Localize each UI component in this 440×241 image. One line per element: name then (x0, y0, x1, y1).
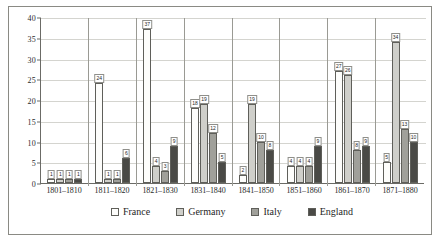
legend-label: France (123, 206, 150, 217)
bar-france[interactable]: 24 (95, 83, 103, 183)
bar-value-label: 10 (256, 133, 266, 142)
bar-value-label: 1 (75, 170, 82, 179)
y-tick-label: 0 (32, 180, 36, 189)
bar-value-label: 5 (219, 153, 226, 162)
bar-england[interactable]: 6 (122, 158, 130, 183)
bar-france[interactable]: 2 (239, 175, 247, 183)
bar-group: 1111 (41, 18, 89, 183)
x-axis-tick-label: 1831–1840 (184, 186, 232, 195)
bar-germany[interactable]: 19 (200, 104, 208, 183)
legend-item-france[interactable]: France (111, 206, 150, 217)
bar-value-label: 9 (362, 137, 369, 146)
bar-germany[interactable]: 1 (104, 179, 112, 183)
bar-group: 4449 (280, 18, 328, 183)
legend-label: England (320, 206, 353, 217)
chart-figure: 0510152025303540 11112411637439181912521… (0, 0, 440, 241)
bar-value-label: 9 (171, 137, 178, 146)
y-tick-label: 10 (28, 138, 36, 147)
bar-germany[interactable]: 26 (344, 75, 352, 183)
bar-england[interactable]: 5 (218, 162, 226, 183)
bar-value-label: 37 (142, 20, 152, 29)
y-tick-mark (37, 184, 41, 185)
bar-england[interactable]: 10 (410, 142, 418, 184)
bar-italy[interactable]: 3 (161, 171, 169, 183)
bar-england[interactable]: 9 (314, 146, 322, 183)
bar-france[interactable]: 27 (335, 71, 343, 183)
bar-group: 1819125 (185, 18, 233, 183)
gridline (41, 184, 426, 185)
y-tick-label: 30 (28, 55, 36, 64)
bar-italy[interactable]: 8 (353, 150, 361, 183)
bar-italy[interactable]: 13 (401, 129, 409, 183)
bar-value-label: 34 (391, 33, 401, 42)
bar-value-label: 3 (162, 162, 169, 171)
bar-value-label: 1 (48, 170, 55, 179)
bar-value-label: 1 (114, 170, 121, 179)
chart-legend: FranceGermanyItalyEngland (40, 206, 424, 217)
bar-italy[interactable]: 12 (209, 133, 217, 183)
bar-france[interactable]: 1 (47, 179, 55, 183)
legend-label: Germany (188, 206, 225, 217)
bar-germany[interactable]: 34 (392, 42, 400, 183)
x-axis-tick-label: 1871–1880 (376, 186, 424, 195)
bar-england[interactable]: 1 (74, 179, 82, 183)
bar-england[interactable]: 9 (170, 146, 178, 183)
bar-value-label: 4 (153, 157, 160, 166)
y-tick-label: 40 (28, 14, 36, 23)
y-tick-label: 35 (28, 34, 36, 43)
legend-item-germany[interactable]: Germany (176, 206, 225, 217)
bar-value-label: 8 (267, 141, 274, 150)
bar-value-label: 4 (296, 157, 303, 166)
bar-germany[interactable]: 19 (248, 104, 256, 183)
legend-swatch-icon (251, 208, 259, 216)
bar-value-label: 1 (57, 170, 64, 179)
legend-swatch-icon (176, 208, 184, 216)
bar-value-label: 6 (123, 149, 130, 158)
x-axis-tick-label: 1851–1860 (280, 186, 328, 195)
legend-label: Italy (263, 206, 281, 217)
bar-italy[interactable]: 10 (257, 142, 265, 184)
bar-italy[interactable]: 1 (113, 179, 121, 183)
bar-value-label: 19 (247, 95, 257, 104)
bar-value-label: 4 (287, 157, 294, 166)
bar-value-label: 1 (66, 170, 73, 179)
plot-area: 0510152025303540 11112411637439181912521… (40, 18, 424, 184)
x-axis-tick-label: 1841–1850 (232, 186, 280, 195)
bar-germany[interactable]: 4 (296, 166, 304, 183)
bar-value-label: 1 (105, 170, 112, 179)
legend-swatch-icon (111, 208, 119, 216)
bar-italy[interactable]: 4 (305, 166, 313, 183)
bar-value-label: 4 (305, 157, 312, 166)
x-axis-labels: 1801–18101811–18201821–18301831–18401841… (40, 186, 424, 195)
bar-france[interactable]: 37 (143, 29, 151, 183)
bar-value-label: 8 (353, 141, 360, 150)
legend-swatch-icon (308, 208, 316, 216)
y-tick-label: 5 (32, 159, 36, 168)
bar-group: 219108 (233, 18, 281, 183)
bar-value-label: 19 (199, 95, 209, 104)
bar-group: 272689 (328, 18, 376, 183)
bar-value-label: 13 (400, 120, 410, 129)
y-tick-label: 15 (28, 117, 36, 126)
y-tick-label: 25 (28, 76, 36, 85)
bar-france[interactable]: 5 (383, 162, 391, 183)
bar-france[interactable]: 4 (287, 166, 295, 183)
bar-value-label: 10 (409, 133, 419, 142)
bar-value-label: 26 (343, 66, 353, 75)
legend-item-italy[interactable]: Italy (251, 206, 281, 217)
bar-groups: 1111241163743918191252191084449272689534… (41, 18, 424, 183)
x-axis-tick-label: 1801–1810 (40, 186, 88, 195)
bar-group: 37439 (137, 18, 185, 183)
bar-value-label: 9 (314, 137, 321, 146)
bar-france[interactable]: 18 (191, 108, 199, 183)
bar-group: 5341310 (376, 18, 424, 183)
bar-england[interactable]: 9 (362, 146, 370, 183)
y-tick-label: 20 (28, 97, 36, 106)
bar-value-label: 5 (383, 153, 390, 162)
plot-wrapper: 0510152025303540 11112411637439181912521… (40, 18, 424, 184)
bar-italy[interactable]: 1 (65, 179, 73, 183)
bar-england[interactable]: 8 (266, 150, 274, 183)
legend-item-england[interactable]: England (308, 206, 353, 217)
bar-germany[interactable]: 4 (152, 166, 160, 183)
bar-germany[interactable]: 1 (56, 179, 64, 183)
